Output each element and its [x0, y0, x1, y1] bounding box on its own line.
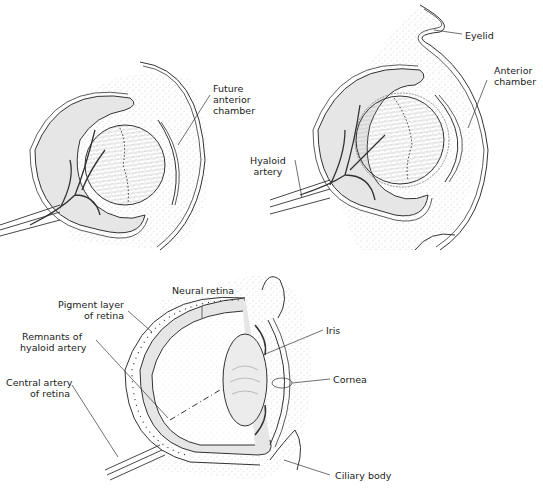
- label-cornea: Cornea: [333, 374, 367, 385]
- label-iris: Iris: [326, 325, 340, 336]
- panel-middle: [270, 5, 488, 250]
- lens: [85, 125, 165, 205]
- label-ciliary-body: Ciliary body: [335, 470, 391, 481]
- label-line: hyaloid artery: [20, 342, 82, 353]
- eye-development-diagram: [0, 0, 543, 492]
- label-line: of retina: [6, 388, 70, 399]
- label-line: Hyaloid: [250, 155, 286, 166]
- label-line: chamber: [494, 76, 536, 87]
- label-pigment-layer: Pigment layer of retina: [58, 299, 124, 321]
- label-central-artery: Central artery of retina: [6, 377, 70, 399]
- label-line: artery: [250, 166, 286, 177]
- label-remnants-hyaloid-artery: Remnants of hyaloid artery: [20, 331, 82, 353]
- panel-early: [0, 62, 210, 250]
- label-line: Anterior: [494, 65, 536, 76]
- optic-stalk: [0, 205, 60, 236]
- label-neural-retina: Neural retina: [172, 285, 234, 296]
- label-future-anterior-chamber: Future anterior chamber: [213, 83, 255, 116]
- label-hyaloid-artery: Hyaloid artery: [250, 155, 286, 177]
- label-line: anterior: [213, 94, 255, 105]
- label-eyelid: Eyelid: [465, 30, 494, 41]
- label-line: Central artery: [6, 377, 70, 388]
- label-line: of retina: [58, 310, 124, 321]
- lens-mature: [223, 334, 267, 426]
- label-line: Remnants of: [20, 331, 82, 342]
- label-line: Future: [213, 83, 255, 94]
- label-line: chamber: [213, 105, 255, 116]
- label-anterior-chamber: Anterior chamber: [494, 65, 536, 87]
- label-line: Pigment layer: [58, 299, 124, 310]
